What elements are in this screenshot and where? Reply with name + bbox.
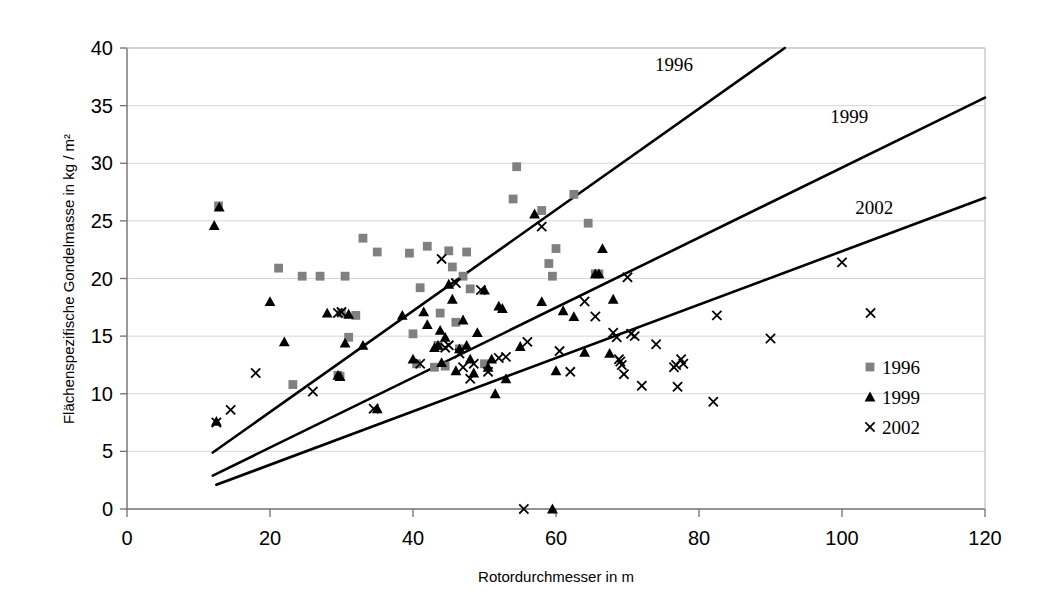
y-tick-label-0: 0 <box>102 498 113 520</box>
marker-square <box>569 190 578 199</box>
y-tick-label-10: 10 <box>91 383 113 405</box>
x-axis-title: Rotordurchmesser in m <box>478 568 634 585</box>
chart-container: 0510152025303540 020406080100120 1996199… <box>0 0 1059 613</box>
marker-square <box>298 272 307 281</box>
marker-square <box>866 363 875 372</box>
marker-square <box>548 272 557 281</box>
marker-square <box>416 283 425 292</box>
x-tick-label-80: 80 <box>688 527 710 549</box>
marker-square <box>537 206 546 215</box>
y-tick-label-15: 15 <box>91 325 113 347</box>
marker-square <box>509 195 518 204</box>
marker-square <box>423 242 432 251</box>
x-tick-label-20: 20 <box>259 527 281 549</box>
x-tick-label-60: 60 <box>545 527 567 549</box>
y-tick-label-35: 35 <box>91 95 113 117</box>
y-tick-label-25: 25 <box>91 210 113 232</box>
trend-label-1996: 1996 <box>655 54 693 75</box>
scatter-chart: 0510152025303540 020406080100120 1996199… <box>0 0 1059 613</box>
chart-background <box>0 0 1059 613</box>
marker-square <box>288 380 297 389</box>
y-axis-title: Flächenspezifische Gondelmasse in kg / m… <box>60 134 77 424</box>
marker-square <box>359 234 368 243</box>
y-tick-label-30: 30 <box>91 152 113 174</box>
x-tick-label-100: 100 <box>825 527 858 549</box>
marker-square <box>584 219 593 228</box>
marker-square <box>512 162 521 171</box>
marker-square <box>409 329 418 338</box>
trend-label-1999: 1999 <box>830 106 868 127</box>
marker-square <box>466 284 475 293</box>
x-tick-label-40: 40 <box>402 527 424 549</box>
marker-square <box>341 272 350 281</box>
legend-label-2002: 2002 <box>882 417 920 438</box>
marker-square <box>448 263 457 272</box>
y-tick-label-20: 20 <box>91 268 113 290</box>
legend-label-1996: 1996 <box>882 357 920 378</box>
marker-square <box>544 259 553 268</box>
marker-square <box>436 309 445 318</box>
y-tick-label-5: 5 <box>102 440 113 462</box>
marker-square <box>552 244 561 253</box>
legend-label-1999: 1999 <box>882 387 920 408</box>
marker-square <box>462 248 471 257</box>
x-tick-label-120: 120 <box>968 527 1001 549</box>
x-tick-label-0: 0 <box>121 527 132 549</box>
trend-label-2002: 2002 <box>855 197 893 218</box>
marker-square <box>274 264 283 273</box>
y-tick-label-40: 40 <box>91 37 113 59</box>
marker-square <box>373 248 382 257</box>
marker-square <box>430 363 439 372</box>
marker-square <box>405 249 414 258</box>
marker-square <box>316 272 325 281</box>
